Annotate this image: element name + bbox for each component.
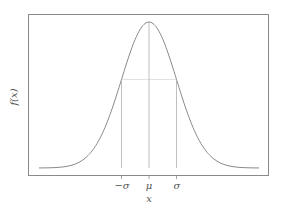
tick-label-mu: μ	[146, 180, 153, 191]
x-axis-label: x	[146, 193, 152, 204]
sigma-guides	[122, 22, 177, 168]
x-ticks	[122, 176, 177, 180]
plot-frame	[29, 15, 269, 176]
normal-distribution-chart: −σ μ σ x f(x)	[0, 0, 281, 211]
y-axis-label: f(x)	[8, 88, 19, 106]
tick-label-neg-sigma: −σ	[114, 180, 130, 191]
tick-label-sigma: σ	[174, 180, 182, 191]
